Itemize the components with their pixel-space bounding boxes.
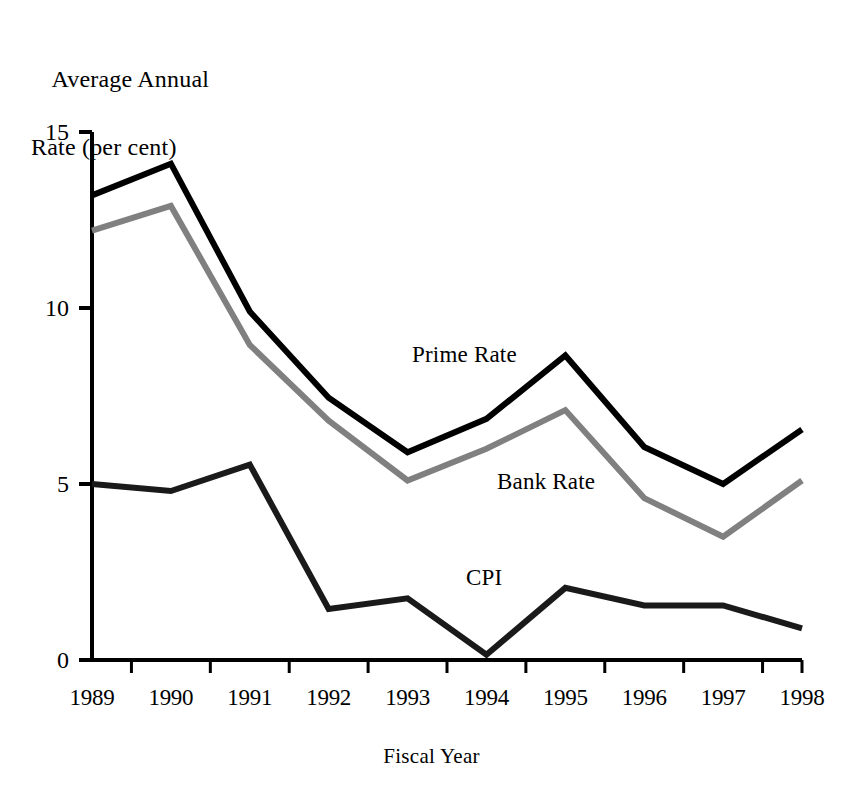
series-line-bank-rate [92,206,802,537]
series-line-prime-rate [92,164,802,484]
series-line-cpi [92,465,802,655]
chart-container: Average Annual Rate (per cent) 051015 19… [0,0,863,803]
axes [79,132,802,673]
data-series [92,164,802,655]
plot-area [0,0,863,803]
x-axis-title: Fiscal Year [0,744,863,769]
